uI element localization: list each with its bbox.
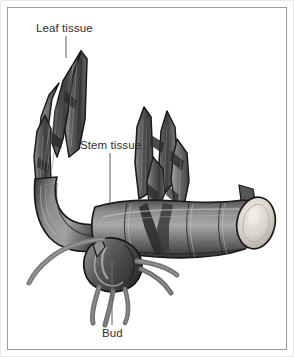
rhizome-illustration [7, 7, 287, 350]
figure-root: Leaf tissue Stem tissue Bud [0, 0, 294, 357]
label-leaf-tissue: Leaf tissue [36, 22, 93, 34]
illustration-plate [7, 7, 287, 350]
label-stem-tissue: Stem tissue [80, 139, 141, 151]
label-bud: Bud [102, 327, 123, 339]
left-leaf-cluster [34, 51, 87, 193]
right-leaf-cluster [135, 107, 189, 207]
